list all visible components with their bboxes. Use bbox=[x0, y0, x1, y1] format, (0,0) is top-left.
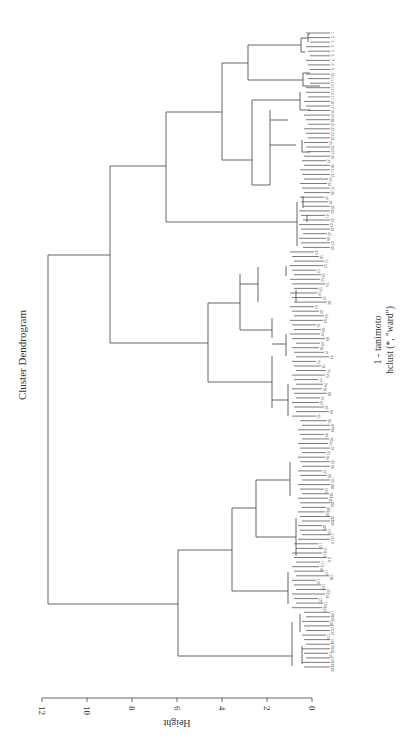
svg-text:65: 65 bbox=[316, 323, 321, 327]
svg-text:43: 43 bbox=[329, 223, 334, 227]
svg-text:29: 29 bbox=[326, 159, 331, 163]
svg-text:17: 17 bbox=[330, 105, 335, 109]
svg-text:119: 119 bbox=[324, 570, 329, 576]
svg-text:35: 35 bbox=[330, 187, 335, 191]
svg-text:26: 26 bbox=[330, 146, 335, 150]
svg-text:64: 64 bbox=[323, 319, 328, 323]
svg-text:58: 58 bbox=[317, 292, 322, 296]
svg-text:77: 77 bbox=[318, 378, 323, 382]
chart-title: Cluster Dendrogram bbox=[16, 310, 28, 401]
svg-text:116: 116 bbox=[327, 556, 332, 562]
svg-text:66: 66 bbox=[321, 328, 326, 332]
svg-text:91: 91 bbox=[328, 442, 333, 446]
tick-label-10: 10 bbox=[82, 706, 92, 716]
svg-text:40: 40 bbox=[330, 209, 335, 213]
svg-text:33: 33 bbox=[328, 178, 333, 182]
svg-text:86: 86 bbox=[327, 419, 332, 423]
tick-label-0: 0 bbox=[307, 706, 317, 711]
svg-text:89: 89 bbox=[324, 433, 329, 437]
svg-text:90: 90 bbox=[329, 437, 334, 441]
svg-text:121: 121 bbox=[316, 579, 321, 585]
svg-text:52: 52 bbox=[323, 264, 328, 268]
svg-text:12: 12 bbox=[330, 82, 335, 86]
svg-text:56: 56 bbox=[325, 282, 330, 286]
svg-text:41: 41 bbox=[325, 214, 330, 218]
dendrogram-chart: Cluster Dendrogram 1 - tanimoto hclust (… bbox=[0, 0, 404, 755]
svg-text:81: 81 bbox=[320, 396, 325, 400]
svg-text:106: 106 bbox=[325, 510, 330, 516]
svg-text:74: 74 bbox=[321, 365, 326, 369]
svg-text:85: 85 bbox=[316, 415, 321, 419]
svg-text:19: 19 bbox=[330, 114, 335, 118]
tick-label-12: 12 bbox=[37, 706, 47, 715]
svg-text:112: 112 bbox=[330, 538, 335, 544]
svg-text:75: 75 bbox=[326, 369, 331, 373]
svg-text:83: 83 bbox=[324, 406, 329, 410]
svg-text:51: 51 bbox=[324, 260, 329, 264]
svg-text:5: 5 bbox=[330, 50, 335, 52]
svg-text:76: 76 bbox=[325, 374, 330, 378]
svg-text:84: 84 bbox=[329, 410, 334, 414]
svg-text:16: 16 bbox=[330, 100, 335, 104]
svg-text:122: 122 bbox=[321, 583, 326, 589]
svg-text:62: 62 bbox=[319, 310, 324, 314]
svg-text:44: 44 bbox=[330, 228, 335, 232]
svg-text:18: 18 bbox=[330, 109, 335, 113]
svg-text:6: 6 bbox=[330, 54, 335, 56]
svg-text:55: 55 bbox=[320, 278, 325, 282]
svg-text:60: 60 bbox=[327, 301, 332, 305]
svg-text:46: 46 bbox=[326, 237, 331, 241]
svg-text:99: 99 bbox=[330, 479, 335, 483]
svg-text:37: 37 bbox=[324, 196, 329, 200]
svg-text:7: 7 bbox=[330, 59, 335, 61]
svg-text:4: 4 bbox=[330, 45, 335, 47]
svg-text:101: 101 bbox=[324, 488, 329, 494]
svg-text:23: 23 bbox=[330, 132, 335, 136]
svg-text:39: 39 bbox=[330, 205, 335, 209]
svg-text:48: 48 bbox=[330, 246, 335, 250]
svg-text:27: 27 bbox=[330, 150, 335, 154]
svg-text:95: 95 bbox=[330, 460, 335, 464]
svg-text:93: 93 bbox=[326, 451, 331, 455]
svg-text:28: 28 bbox=[330, 155, 335, 159]
svg-text:32: 32 bbox=[330, 173, 335, 177]
height-axis: 12 10 8 6 4 2 0 Height bbox=[37, 698, 317, 729]
svg-text:42: 42 bbox=[330, 219, 335, 223]
svg-text:109: 109 bbox=[322, 524, 327, 530]
x-axis-label: 1 - tanimoto bbox=[372, 316, 383, 365]
svg-text:127: 127 bbox=[322, 606, 327, 612]
svg-text:57: 57 bbox=[318, 287, 323, 291]
svg-text:140: 140 bbox=[330, 666, 335, 672]
svg-text:79: 79 bbox=[322, 387, 327, 391]
svg-text:11: 11 bbox=[330, 77, 335, 81]
svg-text:20: 20 bbox=[330, 118, 335, 122]
svg-text:100: 100 bbox=[330, 483, 335, 489]
svg-text:47: 47 bbox=[330, 241, 335, 245]
tick-label-2: 2 bbox=[262, 706, 272, 711]
svg-text:113: 113 bbox=[318, 542, 323, 548]
svg-text:22: 22 bbox=[330, 127, 335, 131]
svg-text:61: 61 bbox=[314, 305, 319, 309]
svg-text:34: 34 bbox=[327, 182, 332, 186]
svg-text:9: 9 bbox=[330, 68, 335, 70]
svg-text:92: 92 bbox=[330, 447, 335, 451]
svg-text:15: 15 bbox=[330, 95, 335, 99]
svg-text:71: 71 bbox=[324, 351, 329, 355]
svg-text:97: 97 bbox=[322, 469, 327, 473]
svg-text:59: 59 bbox=[322, 296, 327, 300]
svg-text:82: 82 bbox=[319, 401, 324, 405]
svg-text:80: 80 bbox=[327, 392, 332, 396]
svg-text:50: 50 bbox=[319, 255, 324, 259]
svg-text:21: 21 bbox=[330, 123, 335, 127]
svg-text:8: 8 bbox=[330, 63, 335, 65]
svg-text:73: 73 bbox=[316, 360, 321, 364]
svg-text:31: 31 bbox=[330, 168, 335, 172]
svg-text:125: 125 bbox=[318, 597, 323, 603]
svg-text:70: 70 bbox=[319, 346, 324, 350]
dendrogram-tree bbox=[48, 34, 320, 666]
tick-label-4: 4 bbox=[217, 706, 227, 711]
svg-text:96: 96 bbox=[330, 465, 335, 469]
svg-text:38: 38 bbox=[328, 200, 333, 204]
svg-text:108: 108 bbox=[330, 520, 335, 526]
svg-text:36: 36 bbox=[330, 191, 335, 195]
